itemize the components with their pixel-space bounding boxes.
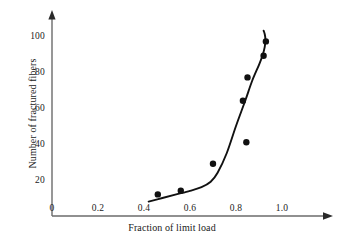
data-point bbox=[178, 188, 184, 194]
chart-container: 0 0.2 0.4 0.6 0.8 1.0 20 40 60 80 100 Fr… bbox=[0, 0, 344, 244]
data-point bbox=[210, 161, 216, 167]
x-tick-label-2: 0.4 bbox=[138, 203, 150, 213]
fitted-curve bbox=[149, 31, 266, 202]
data-point bbox=[263, 38, 269, 44]
x-tick-label-3: 0.6 bbox=[184, 203, 196, 213]
data-point bbox=[240, 98, 246, 104]
x-tick-label-0: 0 bbox=[50, 203, 55, 213]
data-point bbox=[155, 191, 161, 197]
data-point bbox=[243, 139, 249, 145]
data-point bbox=[244, 74, 250, 80]
x-tick-label-5: 1.0 bbox=[276, 203, 288, 213]
axes-group bbox=[48, 10, 333, 220]
x-axis-title: Fraction of limit load bbox=[128, 222, 215, 233]
data-point-group bbox=[155, 38, 269, 197]
y-axis-arrow-icon bbox=[48, 10, 55, 20]
x-tick-label-4: 0.8 bbox=[230, 203, 242, 213]
x-axis-arrow-icon bbox=[323, 212, 333, 220]
y-axis-title: Number of fractured fibers bbox=[27, 34, 38, 194]
data-point bbox=[260, 53, 266, 59]
x-tick-label-1: 0.2 bbox=[92, 203, 104, 213]
